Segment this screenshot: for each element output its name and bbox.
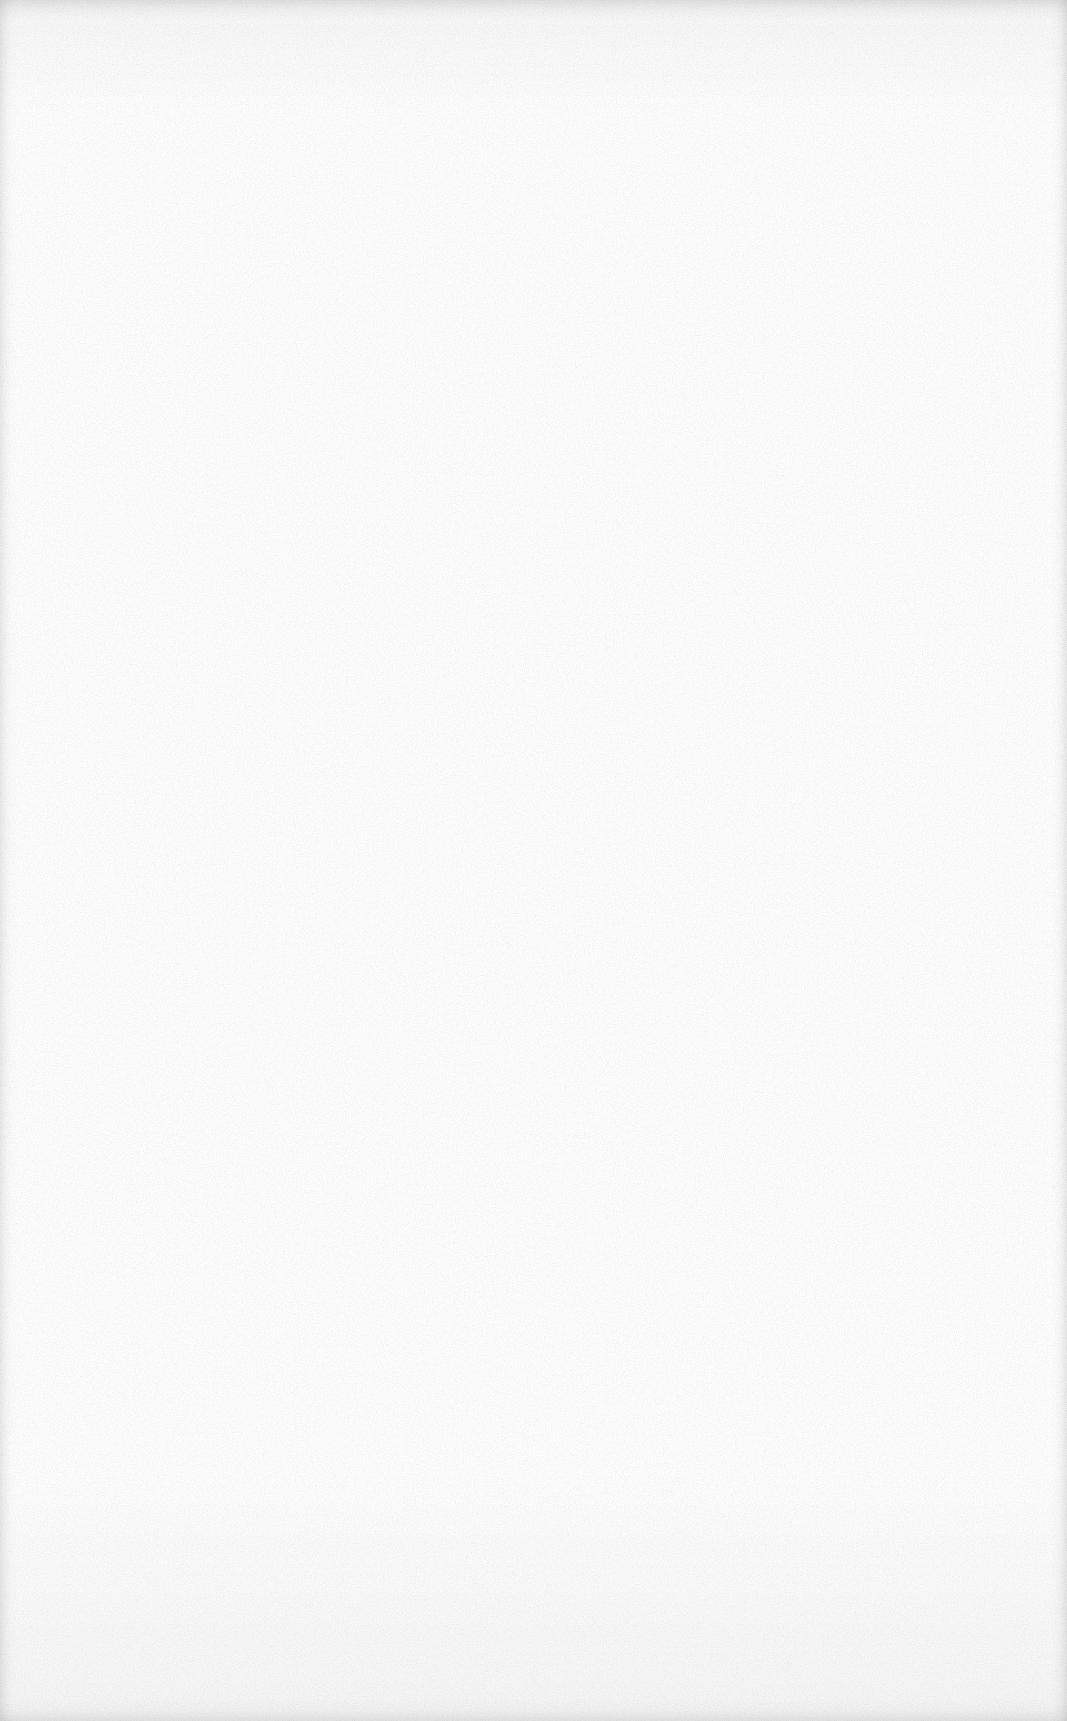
page-content-area (60, 60, 1007, 1661)
blank-scanned-page (0, 0, 1067, 1721)
